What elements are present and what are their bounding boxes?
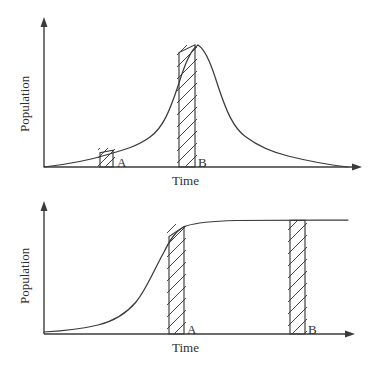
figure-root: A B Time Population [0,0,376,383]
top-y-axis [41,17,48,167]
top-x-axis-arrowhead [352,164,362,171]
bottom-x-axis-caption: Time [172,340,199,355]
bottom-population-chart: A B Time Population [0,192,376,383]
bottom-band-b-hatching [282,202,316,368]
bottom-x-axis-arrowhead [345,331,355,338]
bottom-y-axis-caption: Population [17,247,32,304]
top-band-b-label: B [198,155,207,170]
bottom-band-b-label: B [308,322,317,337]
top-y-axis-arrowhead [41,17,48,27]
bottom-band-a-label: A [187,322,197,337]
top-x-axis-caption: Time [172,173,199,188]
bottom-y-axis [41,201,48,334]
top-y-axis-caption: Population [17,75,32,132]
bottom-y-axis-arrowhead [41,201,48,211]
top-band-a-label: A [117,155,127,170]
top-population-chart: A B Time Population [0,0,376,192]
bottom-band-b [282,202,316,368]
top-population-curve [44,45,348,167]
